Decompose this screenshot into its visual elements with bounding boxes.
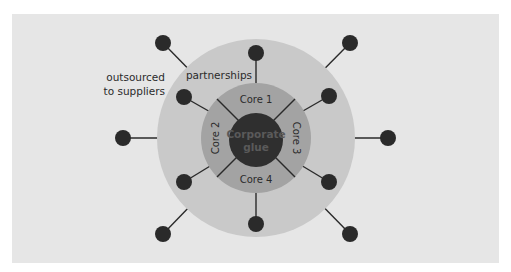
center-label-line1: Corporate [226, 128, 285, 140]
node-outer-bottom-left [155, 226, 171, 242]
node-partner-top-right [321, 88, 337, 104]
node-partner-top [248, 45, 264, 61]
node-outer-left [115, 130, 131, 146]
node-outer-right [380, 130, 396, 146]
outsourced-label-line2: to suppliers [104, 85, 165, 97]
corporate-glue-core [229, 113, 283, 167]
node-partner-bottom [248, 216, 264, 232]
node-partner-top-left [176, 89, 192, 105]
outsourced-label-line1: outsourced [106, 71, 165, 83]
center-label-line2: glue [243, 141, 269, 153]
core4-label: Core 4 [240, 174, 273, 185]
core1-label: Core 1 [240, 94, 273, 105]
core3-label: Core 3 [291, 122, 302, 155]
node-partner-bottom-left [176, 174, 192, 190]
core2-label: Core 2 [210, 122, 221, 155]
partnerships-label: partnerships [186, 69, 252, 81]
node-outer-bottom-right [342, 226, 358, 242]
node-outer-top-left [155, 35, 171, 51]
diagram-canvas: outsourced to suppliers partnerships Cor… [0, 0, 511, 272]
node-partner-bottom-right [321, 174, 337, 190]
node-outer-top-right [342, 35, 358, 51]
